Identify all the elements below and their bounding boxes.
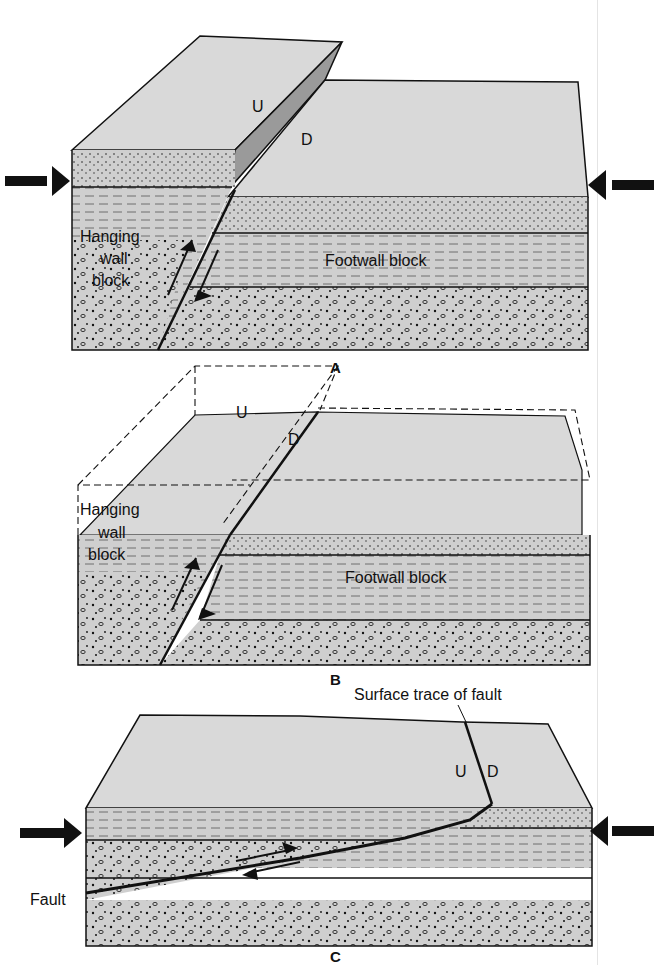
label-hanging-wall-1: Hanging <box>80 501 140 518</box>
caption-b: B <box>330 671 341 688</box>
label-hanging-wall-3: block <box>92 272 130 289</box>
panel-c: Surface trace of fault U D Fault C <box>20 686 654 965</box>
stress-arrow-left-icon <box>5 166 70 196</box>
label-hanging-wall-1: Hanging <box>80 228 140 245</box>
label-footwall: Footwall block <box>345 569 447 586</box>
panel-a: U D Hanging wall block Footwall block A <box>5 36 654 376</box>
label-up: U <box>455 763 467 780</box>
label-footwall: Footwall block <box>325 252 427 269</box>
stress-arrow-right-icon <box>590 816 654 846</box>
label-hanging-wall-3: block <box>88 546 126 563</box>
caption-a: A <box>330 359 341 376</box>
stress-arrow-right-icon <box>588 170 654 200</box>
stress-arrow-left-icon <box>20 818 82 848</box>
label-down: D <box>301 131 313 148</box>
label-surface-trace: Surface trace of fault <box>354 686 502 703</box>
panel-b: U D Hanging wall block Footwall block B <box>78 366 590 688</box>
label-down: D <box>487 763 499 780</box>
label-down: D <box>288 431 300 448</box>
label-hanging-wall-2: wall <box>99 250 128 267</box>
label-up: U <box>252 98 264 115</box>
caption-c: C <box>330 948 341 965</box>
label-up: U <box>236 404 248 421</box>
label-hanging-wall-2: wall <box>97 524 126 541</box>
fault-diagram: U D Hanging wall block Footwall block A … <box>0 0 666 965</box>
label-fault: Fault <box>30 891 66 908</box>
